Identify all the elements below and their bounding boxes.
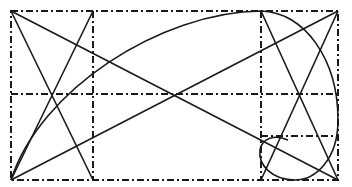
golden-rectangle-diagram	[0, 0, 352, 187]
